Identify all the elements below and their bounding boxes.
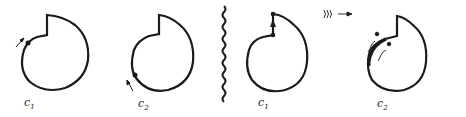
panel-2-label: c2 — [138, 97, 149, 112]
panel-3-label: c1 — [258, 96, 269, 111]
panel-4-loop — [368, 16, 426, 91]
panel-2-arrow-icon — [127, 80, 133, 91]
panel-2-loop — [132, 15, 193, 91]
panel-3-loop — [247, 14, 307, 91]
wavy-divider — [223, 6, 226, 102]
panel-3-point-top — [271, 12, 276, 17]
panel-3-arrow-icon — [270, 19, 276, 27]
panel-3-point-bottom — [271, 33, 276, 38]
panel-1-point — [26, 41, 31, 46]
diagram-canvas — [0, 0, 466, 117]
label-sub: 1 — [30, 103, 34, 111]
panel-2-point — [133, 73, 138, 78]
sound-waves-arrow-icon — [324, 10, 352, 18]
label-sub: 1 — [264, 103, 268, 111]
panel-1-arrow-icon — [16, 38, 24, 47]
panel-1-loop — [22, 15, 88, 90]
label-sub: 2 — [144, 104, 148, 112]
label-sub: 2 — [383, 104, 387, 112]
panel-1-label: c1 — [24, 96, 35, 111]
panel-4-label: c2 — [377, 97, 388, 112]
panel-4-thick-segment — [369, 39, 386, 66]
